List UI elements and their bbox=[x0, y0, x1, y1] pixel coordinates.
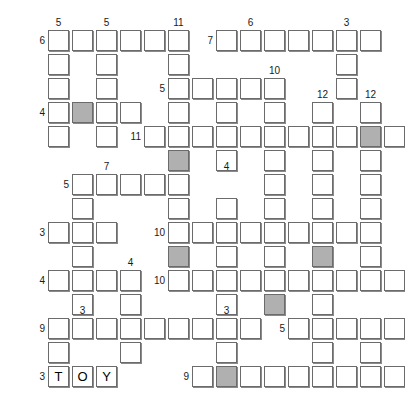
crossword-cell[interactable] bbox=[72, 318, 93, 339]
crossword-cell[interactable] bbox=[48, 126, 69, 147]
crossword-cell[interactable] bbox=[264, 198, 285, 219]
crossword-cell[interactable] bbox=[264, 366, 285, 387]
crossword-cell[interactable] bbox=[360, 366, 381, 387]
crossword-cell[interactable] bbox=[240, 30, 261, 51]
crossword-cell[interactable] bbox=[72, 198, 93, 219]
crossword-cell[interactable] bbox=[216, 222, 237, 243]
crossword-cell[interactable] bbox=[192, 366, 213, 387]
crossword-cell-shaded[interactable] bbox=[360, 126, 381, 147]
crossword-cell[interactable] bbox=[120, 174, 141, 195]
crossword-cell[interactable] bbox=[192, 270, 213, 291]
crossword-cell[interactable] bbox=[192, 78, 213, 99]
crossword-cell[interactable] bbox=[120, 30, 141, 51]
crossword-cell[interactable] bbox=[96, 30, 117, 51]
crossword-cell[interactable] bbox=[264, 30, 285, 51]
crossword-cell[interactable] bbox=[216, 30, 237, 51]
crossword-cell[interactable] bbox=[240, 222, 261, 243]
crossword-cell[interactable] bbox=[192, 222, 213, 243]
crossword-cell[interactable] bbox=[168, 270, 189, 291]
crossword-cell[interactable] bbox=[48, 78, 69, 99]
crossword-cell[interactable] bbox=[96, 54, 117, 75]
crossword-cell[interactable] bbox=[384, 318, 405, 339]
crossword-cell[interactable] bbox=[288, 30, 309, 51]
crossword-cell[interactable] bbox=[72, 174, 93, 195]
crossword-cell[interactable] bbox=[168, 174, 189, 195]
crossword-cell[interactable] bbox=[72, 30, 93, 51]
crossword-cell[interactable] bbox=[240, 270, 261, 291]
crossword-cell[interactable] bbox=[168, 318, 189, 339]
crossword-cell[interactable] bbox=[264, 150, 285, 171]
crossword-cell[interactable] bbox=[336, 270, 357, 291]
crossword-cell[interactable] bbox=[168, 126, 189, 147]
crossword-cell[interactable] bbox=[360, 174, 381, 195]
crossword-cell[interactable] bbox=[72, 222, 93, 243]
crossword-cell[interactable] bbox=[288, 222, 309, 243]
crossword-cell[interactable] bbox=[192, 126, 213, 147]
crossword-cell-shaded[interactable] bbox=[168, 246, 189, 267]
crossword-cell[interactable] bbox=[288, 270, 309, 291]
crossword-cell[interactable] bbox=[288, 126, 309, 147]
crossword-cell[interactable] bbox=[72, 246, 93, 267]
crossword-cell[interactable] bbox=[120, 270, 141, 291]
crossword-cell[interactable] bbox=[48, 102, 69, 123]
crossword-cell[interactable] bbox=[264, 270, 285, 291]
crossword-cell[interactable] bbox=[312, 102, 333, 123]
crossword-cell[interactable] bbox=[120, 318, 141, 339]
crossword-cell[interactable] bbox=[336, 318, 357, 339]
crossword-cell[interactable] bbox=[216, 270, 237, 291]
crossword-cell[interactable] bbox=[360, 342, 381, 363]
crossword-cell[interactable] bbox=[312, 294, 333, 315]
crossword-cell[interactable] bbox=[48, 318, 69, 339]
crossword-cell[interactable] bbox=[120, 102, 141, 123]
crossword-cell[interactable] bbox=[312, 174, 333, 195]
crossword-cell[interactable] bbox=[336, 30, 357, 51]
crossword-cell[interactable] bbox=[48, 30, 69, 51]
crossword-cell[interactable] bbox=[336, 126, 357, 147]
crossword-cell-shaded[interactable] bbox=[168, 150, 189, 171]
crossword-cell[interactable] bbox=[384, 270, 405, 291]
crossword-cell[interactable] bbox=[312, 198, 333, 219]
crossword-cell[interactable] bbox=[144, 318, 165, 339]
crossword-cell[interactable] bbox=[240, 78, 261, 99]
crossword-cell[interactable] bbox=[288, 366, 309, 387]
crossword-cell[interactable] bbox=[384, 126, 405, 147]
crossword-cell[interactable] bbox=[48, 54, 69, 75]
crossword-cell[interactable] bbox=[360, 270, 381, 291]
crossword-cell[interactable] bbox=[264, 174, 285, 195]
crossword-cell-shaded[interactable] bbox=[72, 102, 93, 123]
crossword-cell[interactable] bbox=[264, 102, 285, 123]
crossword-cell-shaded[interactable] bbox=[264, 294, 285, 315]
crossword-cell[interactable] bbox=[360, 150, 381, 171]
crossword-cell[interactable] bbox=[168, 222, 189, 243]
crossword-cell[interactable] bbox=[384, 366, 405, 387]
crossword-cell[interactable] bbox=[96, 78, 117, 99]
crossword-cell[interactable] bbox=[360, 222, 381, 243]
crossword-cell[interactable] bbox=[96, 174, 117, 195]
crossword-cell[interactable] bbox=[168, 30, 189, 51]
crossword-cell[interactable] bbox=[336, 78, 357, 99]
crossword-cell[interactable] bbox=[192, 318, 213, 339]
crossword-cell[interactable] bbox=[336, 366, 357, 387]
crossword-cell[interactable] bbox=[264, 222, 285, 243]
crossword-cell[interactable]: Y bbox=[96, 366, 117, 387]
crossword-cell[interactable] bbox=[336, 54, 357, 75]
crossword-cell[interactable] bbox=[96, 102, 117, 123]
crossword-cell[interactable] bbox=[120, 342, 141, 363]
crossword-cell[interactable]: O bbox=[72, 366, 93, 387]
crossword-cell[interactable] bbox=[360, 246, 381, 267]
crossword-cell[interactable] bbox=[312, 270, 333, 291]
crossword-cell[interactable] bbox=[288, 318, 309, 339]
crossword-cell[interactable] bbox=[120, 294, 141, 315]
crossword-cell[interactable] bbox=[72, 270, 93, 291]
crossword-cell[interactable] bbox=[144, 30, 165, 51]
crossword-cell[interactable] bbox=[216, 246, 237, 267]
crossword-cell[interactable] bbox=[96, 270, 117, 291]
crossword-cell[interactable] bbox=[264, 78, 285, 99]
crossword-cell[interactable] bbox=[48, 270, 69, 291]
crossword-cell[interactable]: T bbox=[48, 366, 69, 387]
crossword-cell[interactable] bbox=[264, 246, 285, 267]
crossword-cell[interactable] bbox=[216, 198, 237, 219]
crossword-cell-shaded[interactable] bbox=[216, 366, 237, 387]
crossword-cell[interactable] bbox=[240, 126, 261, 147]
crossword-cell[interactable] bbox=[144, 126, 165, 147]
